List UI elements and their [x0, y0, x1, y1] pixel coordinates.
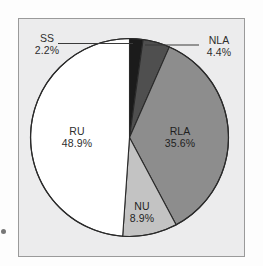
slice-label-nla-value: 4.4% — [196, 47, 242, 59]
slice-label-nu-name: NU — [119, 201, 165, 213]
scan-artifact — [1, 229, 6, 234]
slice-label-rla-value: 35.6% — [152, 138, 208, 150]
slice-label-ss: SS 2.2% — [26, 33, 68, 57]
slice-label-ss-name: SS — [26, 33, 68, 45]
slice-label-ss-value: 2.2% — [26, 45, 68, 57]
slice-label-nu: NU 8.9% — [119, 201, 165, 225]
pie-chart-figure: SS 2.2% NLA 4.4% RU 48.9% RLA 35.6% NU 8… — [0, 0, 263, 266]
slice-label-ru-value: 48.9% — [49, 138, 105, 150]
slice-label-ru: RU 48.9% — [49, 126, 105, 150]
slice-label-rla-name: RLA — [152, 126, 208, 138]
slice-label-nla-name: NLA — [196, 35, 242, 47]
slice-label-ru-name: RU — [49, 126, 105, 138]
slice-label-nla: NLA 4.4% — [196, 35, 242, 59]
slice-label-nu-value: 8.9% — [119, 213, 165, 225]
slice-label-rla: RLA 35.6% — [152, 126, 208, 150]
